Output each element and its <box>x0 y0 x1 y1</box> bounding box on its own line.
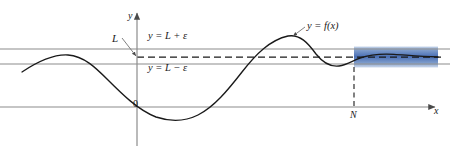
figure-canvas <box>0 0 450 148</box>
limit-value-label: L <box>112 33 118 44</box>
x-axis-label: x <box>434 106 438 116</box>
y-axis-label: y <box>128 11 132 21</box>
origin-label: 0 <box>133 99 138 109</box>
n-value-label: N <box>350 110 357 120</box>
limit-definition-figure: y x 0 L N y = L + ε y = L − ε y = f(x) <box>0 0 450 148</box>
limit-leader-line <box>122 38 136 56</box>
function-equation-label: y = f(x) <box>307 21 339 32</box>
lower-band-equation-label: y = L − ε <box>148 63 187 74</box>
upper-band-equation-label: y = L + ε <box>148 31 187 42</box>
function-label-leader-line <box>293 27 305 36</box>
